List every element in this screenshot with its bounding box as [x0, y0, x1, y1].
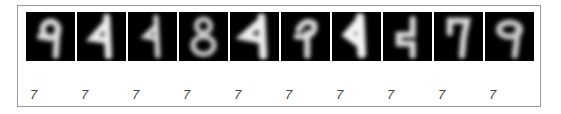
- digit-image-2: [128, 12, 177, 61]
- digit-image-9: [485, 12, 534, 61]
- digit-image-1: [77, 12, 126, 61]
- digit-label-2: 7: [128, 87, 179, 102]
- image-strip: [26, 12, 534, 61]
- digit-label-0: 7: [26, 87, 77, 102]
- label-row: 7 7 7 7 7 7 7 7 7 7: [26, 87, 536, 102]
- digit-label-7: 7: [383, 87, 434, 102]
- digit-image-8: [434, 12, 483, 61]
- digit-label-9: 7: [485, 87, 536, 102]
- digit-label-1: 7: [77, 87, 128, 102]
- digit-image-7: [383, 12, 432, 61]
- digit-image-0: [26, 12, 75, 61]
- digit-label-6: 7: [332, 87, 383, 102]
- digit-label-3: 7: [179, 87, 230, 102]
- digit-image-5: [281, 12, 330, 61]
- digit-label-5: 7: [281, 87, 332, 102]
- digit-label-4: 7: [230, 87, 281, 102]
- digit-image-4: [230, 12, 279, 61]
- digit-image-6: [332, 12, 381, 61]
- digit-image-3: [179, 12, 228, 61]
- digit-label-8: 7: [434, 87, 485, 102]
